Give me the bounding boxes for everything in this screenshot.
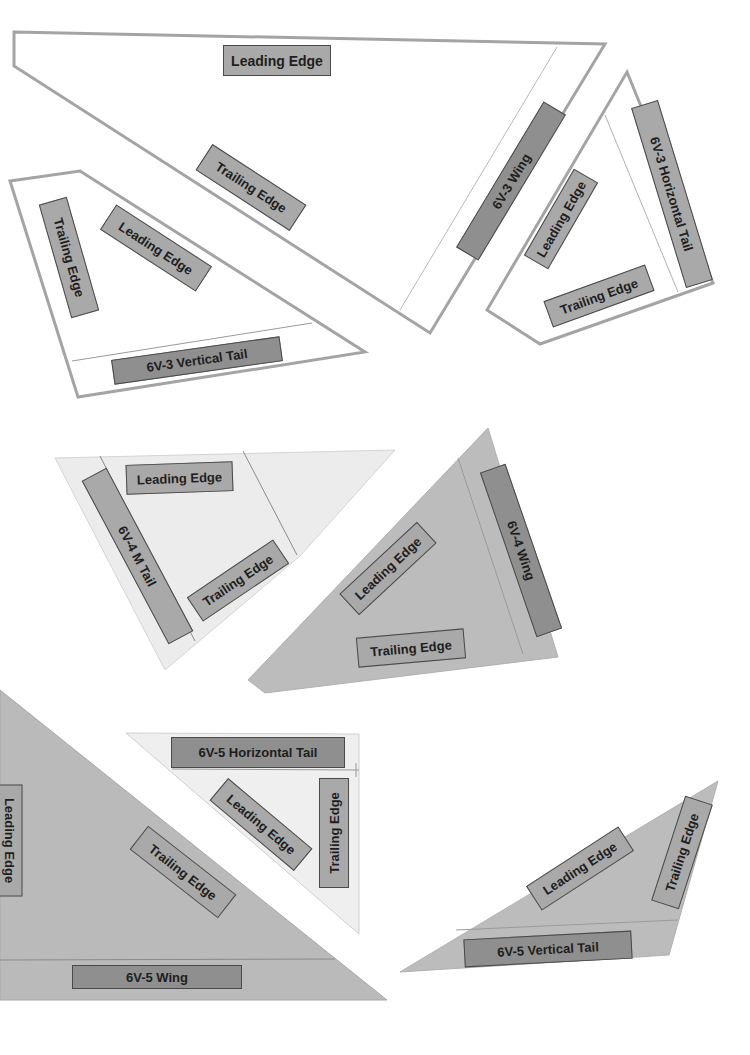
- 6v3-wing-leading-edge-label: Leading Edge: [223, 45, 331, 76]
- 6v5-wing-leading-edge-label: Leading Edge: [0, 785, 23, 897]
- 6v5-horizontal-tail-trailing-edge-label: Trailing Edge: [319, 778, 349, 888]
- 6v5-horizontal-tail-name-label: 6V-5 Horizontal Tail: [171, 737, 345, 768]
- 6v4-m-tail-leading-edge-label: Leading Edge: [126, 461, 234, 495]
- 6v5-wing-name-label: 6V-5 Wing: [72, 965, 242, 989]
